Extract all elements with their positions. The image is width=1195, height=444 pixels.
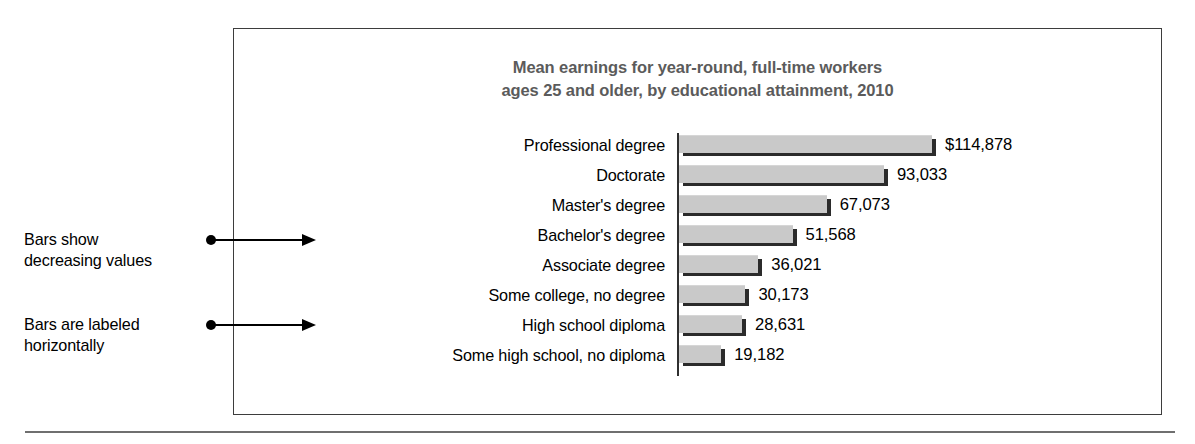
value-label: $114,878 — [945, 135, 1012, 155]
category-label: Doctorate — [596, 165, 665, 185]
arrow-head-icon — [302, 234, 316, 246]
bar-masters-degree — [679, 195, 827, 216]
bar-chart-plot-area: Professional degree $114,878 Doctorate 9… — [356, 133, 1056, 377]
category-label: Bachelor's degree — [538, 225, 665, 245]
value-label: 51,568 — [806, 225, 856, 245]
bar-fill — [679, 315, 742, 333]
value-label: 93,033 — [897, 165, 947, 185]
annotation-bars-show-decreasing-values: Bars show decreasing values — [24, 229, 152, 271]
bar-fill — [679, 135, 932, 153]
bar-doctorate — [679, 165, 884, 186]
value-label: 28,631 — [755, 315, 805, 335]
bar-row: Some college, no degree 30,173 — [356, 283, 1056, 313]
bar-associate-degree — [679, 255, 758, 276]
chart-title: Mean earnings for year-round, full-time … — [233, 56, 1162, 102]
chart-title-line-1: Mean earnings for year-round, full-time … — [233, 56, 1162, 79]
bar-row: Professional degree $114,878 — [356, 133, 1056, 163]
bar-row: High school diploma 28,631 — [356, 313, 1056, 343]
bar-fill — [679, 225, 793, 243]
annotation-line: Bars are labeled — [24, 314, 139, 335]
value-label: 30,173 — [758, 285, 808, 305]
category-label: High school diploma — [522, 315, 665, 335]
bar-fill — [679, 195, 827, 213]
category-label: Professional degree — [524, 135, 665, 155]
category-label: Some high school, no diploma — [452, 345, 665, 365]
category-label: Associate degree — [542, 255, 665, 275]
arrow-head-icon — [302, 319, 316, 331]
bar-fill — [679, 285, 745, 303]
arrow-shaft — [214, 239, 304, 242]
annotation-line: horizontally — [24, 335, 139, 356]
bar-professional-degree — [679, 135, 932, 156]
bar-fill — [679, 165, 884, 183]
bar-row: Associate degree 36,021 — [356, 253, 1056, 283]
annotation-arrow-2 — [206, 317, 318, 333]
arrow-shaft — [214, 324, 304, 327]
bar-row: Master's degree 67,073 — [356, 193, 1056, 223]
bar-fill — [679, 345, 721, 363]
value-label: 67,073 — [840, 195, 890, 215]
annotation-line: Bars show — [24, 229, 152, 250]
category-label: Some college, no degree — [488, 285, 665, 305]
bar-row: Bachelor's degree 51,568 — [356, 223, 1056, 253]
category-label: Master's degree — [552, 195, 665, 215]
bar-fill — [679, 255, 758, 273]
annotation-arrow-1 — [206, 232, 318, 248]
chart-title-line-2: ages 25 and older, by educational attain… — [233, 79, 1162, 102]
annotation-bars-are-labeled-horizontally: Bars are labeled horizontally — [24, 314, 139, 356]
bar-some-college-no-degree — [679, 285, 745, 306]
value-label: 36,021 — [771, 255, 821, 275]
bar-some-high-school-no-diploma — [679, 345, 721, 366]
page-bottom-rule — [25, 431, 1175, 433]
bar-high-school-diploma — [679, 315, 742, 336]
bar-row: Doctorate 93,033 — [356, 163, 1056, 193]
bar-row: Some high school, no diploma 19,182 — [356, 343, 1056, 373]
bar-bachelors-degree — [679, 225, 793, 246]
value-label: 19,182 — [734, 345, 784, 365]
annotation-line: decreasing values — [24, 250, 152, 271]
